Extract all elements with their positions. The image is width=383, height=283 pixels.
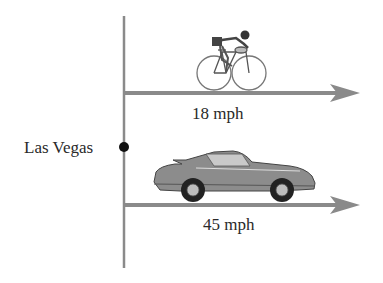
sports-car-icon: [154, 151, 315, 202]
bicycle-speed-label: 18 mph: [192, 104, 244, 123]
bicycle-direction-arrow: [124, 84, 360, 102]
origin-label: Las Vegas: [24, 138, 93, 157]
car-direction-arrow: [124, 196, 360, 214]
car-speed-label: 45 mph: [203, 215, 255, 234]
bicycle-rider-icon: [197, 31, 266, 91]
origin-point: [119, 142, 129, 152]
travel-diagram: Las Vegas 18 mph 45 mph: [0, 0, 383, 283]
